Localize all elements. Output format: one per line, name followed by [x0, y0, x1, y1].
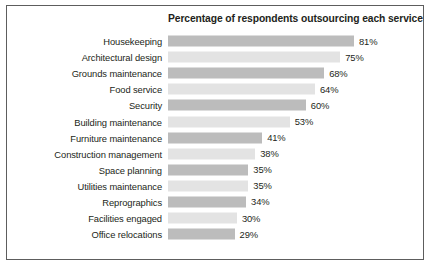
- bar-fill: [168, 229, 235, 240]
- bar-category-label: Facilities engaged: [7, 213, 162, 224]
- bar-category-label: Office relocations: [7, 229, 162, 240]
- bar-value-label: 30%: [242, 213, 260, 224]
- bar-fill: [168, 36, 354, 47]
- bar-value-label: 29%: [240, 229, 258, 240]
- chart-title: Percentage of respondents outsourcing ea…: [168, 13, 423, 24]
- bar-row: Reprographics34%: [7, 194, 423, 210]
- bar-track: 34%: [168, 196, 419, 207]
- bar-row: Housekeeping81%: [7, 33, 423, 49]
- bar-row: Construction management38%: [7, 146, 423, 162]
- bar-row: Security60%: [7, 97, 423, 113]
- bar-category-label: Grounds maintenance: [7, 68, 162, 79]
- bar-value-label: 53%: [295, 116, 313, 127]
- bar-category-label: Furniture maintenance: [7, 132, 162, 143]
- bar-fill: [168, 213, 237, 224]
- bar-fill: [168, 148, 255, 159]
- bar-track: 53%: [168, 116, 419, 127]
- bar-value-label: 38%: [260, 148, 278, 159]
- bar-value-label: 35%: [253, 164, 271, 175]
- bar-fill: [168, 84, 315, 95]
- bar-category-label: Architectural design: [7, 52, 162, 63]
- bar-value-label: 60%: [311, 100, 329, 111]
- bar-value-label: 68%: [329, 68, 347, 79]
- bar-category-label: Security: [7, 100, 162, 111]
- bar-row: Office relocations29%: [7, 226, 423, 242]
- bar-value-label: 41%: [267, 132, 285, 143]
- bar-track: 35%: [168, 164, 419, 175]
- bar-category-label: Building maintenance: [7, 116, 162, 127]
- bar-category-label: Space planning: [7, 164, 162, 175]
- bar-row: Facilities engaged30%: [7, 210, 423, 226]
- bar-track: 64%: [168, 84, 419, 95]
- bar-value-label: 64%: [320, 84, 338, 95]
- bar-track: 68%: [168, 68, 419, 79]
- bar-value-label: 35%: [253, 180, 271, 191]
- bar-row: Furniture maintenance41%: [7, 130, 423, 146]
- bar-row: Grounds maintenance68%: [7, 65, 423, 81]
- bar-fill: [168, 52, 340, 63]
- bar-category-label: Food service: [7, 84, 162, 95]
- bar-track: 41%: [168, 132, 419, 143]
- bar-value-label: 75%: [345, 52, 363, 63]
- bar-value-label: 81%: [359, 36, 377, 47]
- bar-row: Building maintenance53%: [7, 113, 423, 129]
- bar-track: 60%: [168, 100, 419, 111]
- bar-track: 29%: [168, 229, 419, 240]
- bar-track: 38%: [168, 148, 419, 159]
- bar-row: Architectural design75%: [7, 49, 423, 65]
- bar-category-label: Reprographics: [7, 196, 162, 207]
- bar-category-label: Construction management: [7, 148, 162, 159]
- bar-value-label: 34%: [251, 196, 269, 207]
- bar-fill: [168, 100, 306, 111]
- bar-row: Utilities maintenance35%: [7, 178, 423, 194]
- bar-track: 75%: [168, 52, 419, 63]
- bar-fill: [168, 68, 324, 79]
- bar-row: Food service64%: [7, 81, 423, 97]
- bar-category-label: Housekeeping: [7, 36, 162, 47]
- bar-category-label: Utilities maintenance: [7, 180, 162, 191]
- bar-fill: [168, 164, 248, 175]
- bar-fill: [168, 180, 248, 191]
- bar-fill: [168, 116, 290, 127]
- bar-chart-plot-area: Housekeeping81%Architectural design75%Gr…: [7, 33, 423, 242]
- chart-frame: Percentage of respondents outsourcing ea…: [6, 5, 424, 260]
- bar-track: 35%: [168, 180, 419, 191]
- bar-row: Space planning35%: [7, 162, 423, 178]
- bar-track: 81%: [168, 36, 419, 47]
- bar-fill: [168, 132, 262, 143]
- bar-track: 30%: [168, 213, 419, 224]
- bar-fill: [168, 196, 246, 207]
